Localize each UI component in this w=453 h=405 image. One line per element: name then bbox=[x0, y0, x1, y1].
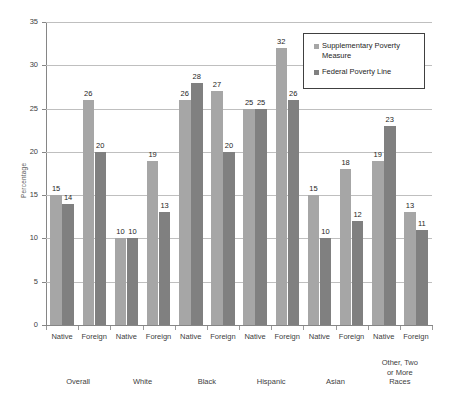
legend-item-federal-poverty-line: Federal Poverty Line bbox=[314, 67, 418, 77]
x-axis-nativity-label: Native bbox=[46, 332, 78, 341]
bar-value-label: 26 bbox=[78, 89, 100, 98]
gridline bbox=[46, 22, 432, 23]
x-axis-group-label-line: Asian bbox=[303, 377, 367, 387]
bar-value-label: 14 bbox=[57, 193, 79, 202]
bar-value-label: 10 bbox=[122, 227, 144, 236]
x-axis-group-label: Asian bbox=[303, 377, 367, 387]
x-axis-tick-mark bbox=[78, 326, 79, 330]
x-axis-tick-mark bbox=[175, 326, 176, 330]
x-axis-group-label-line: Overall bbox=[46, 377, 110, 387]
bar-value-label: 12 bbox=[347, 210, 369, 219]
bar bbox=[243, 109, 255, 325]
bar bbox=[404, 212, 416, 325]
x-axis-nativity-label: Foreign bbox=[271, 332, 303, 341]
bar bbox=[127, 238, 139, 325]
bar-value-label: 15 bbox=[303, 184, 325, 193]
y-axis-tick-label: 35 bbox=[16, 18, 38, 26]
x-axis-nativity-label: Native bbox=[368, 332, 400, 341]
x-axis-tick-mark bbox=[400, 326, 401, 330]
bar bbox=[352, 221, 364, 325]
legend-label-fpl: Federal Poverty Line bbox=[322, 67, 418, 77]
bar-value-label: 15 bbox=[45, 184, 67, 193]
bar bbox=[95, 152, 107, 325]
x-axis-nativity-label: Native bbox=[110, 332, 142, 341]
bar bbox=[384, 126, 396, 325]
bar bbox=[308, 195, 320, 325]
bar-value-label: 26 bbox=[283, 89, 305, 98]
x-axis-tick-mark bbox=[207, 326, 208, 330]
x-axis-nativity-label: Foreign bbox=[143, 332, 175, 341]
x-axis-tick-mark bbox=[336, 326, 337, 330]
bar bbox=[62, 204, 74, 325]
x-axis-nativity-label: Native bbox=[175, 332, 207, 341]
bar-value-label: 27 bbox=[206, 80, 228, 89]
bar bbox=[320, 238, 332, 325]
bar-value-label: 18 bbox=[335, 158, 357, 167]
legend-item-supplementary-poverty-measure: Supplementary Poverty Measure bbox=[314, 41, 418, 61]
poverty-bar-chart: Percentage 05101520253035 15142620101019… bbox=[0, 0, 453, 405]
x-axis-tick-mark bbox=[432, 326, 433, 330]
x-axis-nativity-label: Foreign bbox=[78, 332, 110, 341]
bar-value-label: 11 bbox=[411, 219, 433, 228]
x-axis-nativity-label: Foreign bbox=[400, 332, 432, 341]
legend: Supplementary Poverty Measure Federal Po… bbox=[303, 33, 425, 89]
x-axis-tick-mark bbox=[110, 326, 111, 330]
x-axis-group-label-line: or More bbox=[368, 368, 432, 378]
x-axis-tick-mark bbox=[303, 326, 304, 330]
bar bbox=[211, 91, 223, 325]
x-axis-group-label: Overall bbox=[46, 377, 110, 387]
bar-value-label: 32 bbox=[271, 37, 293, 46]
x-axis-group-label-line: Races bbox=[368, 377, 432, 387]
legend-swatch-icon-fpl bbox=[314, 70, 319, 75]
x-axis-tick-mark bbox=[239, 326, 240, 330]
x-axis-tick-mark bbox=[368, 326, 369, 330]
bar-value-label: 13 bbox=[399, 201, 421, 210]
bar-value-label: 20 bbox=[90, 141, 112, 150]
bar-value-label: 28 bbox=[186, 72, 208, 81]
x-axis-group-label-line: White bbox=[110, 377, 174, 387]
y-axis-tick-label: 30 bbox=[16, 61, 38, 69]
gridline bbox=[46, 109, 432, 110]
y-axis-tick-label: 10 bbox=[16, 234, 38, 242]
x-axis-group-label: Black bbox=[175, 377, 239, 387]
y-axis-tick-label: 15 bbox=[16, 191, 38, 199]
legend-label-spm: Supplementary Poverty Measure bbox=[322, 41, 418, 61]
x-axis-group-label: Hispanic bbox=[239, 377, 303, 387]
bar bbox=[83, 100, 95, 325]
bar bbox=[223, 152, 235, 325]
x-axis-tick-mark bbox=[143, 326, 144, 330]
bar bbox=[416, 230, 428, 325]
bar bbox=[372, 161, 384, 325]
bar-value-label: 23 bbox=[379, 115, 401, 124]
x-axis-group-label-line: Black bbox=[175, 377, 239, 387]
bar bbox=[50, 195, 62, 325]
x-axis-nativity-label: Foreign bbox=[207, 332, 239, 341]
bar bbox=[340, 169, 352, 325]
bar bbox=[115, 238, 127, 325]
bar bbox=[255, 109, 267, 325]
bar bbox=[159, 212, 171, 325]
bar-value-label: 10 bbox=[315, 227, 337, 236]
x-axis-group-label: Other, Twoor MoreRaces bbox=[368, 358, 432, 387]
x-axis-nativity-label: Native bbox=[239, 332, 271, 341]
bar-value-label: 20 bbox=[218, 141, 240, 150]
bar-value-label: 19 bbox=[142, 150, 164, 159]
x-axis-group-label: White bbox=[110, 377, 174, 387]
x-axis-nativity-label: Native bbox=[303, 332, 335, 341]
y-axis-tick-label: 20 bbox=[16, 148, 38, 156]
x-axis-group-label-line: Other, Two bbox=[368, 358, 432, 368]
y-axis-tick-label: 25 bbox=[16, 105, 38, 113]
y-axis-tick-label: 5 bbox=[16, 278, 38, 286]
x-axis-nativity-label: Foreign bbox=[336, 332, 368, 341]
bar bbox=[179, 100, 191, 325]
bar bbox=[191, 83, 203, 325]
x-axis-group-label-line: Hispanic bbox=[239, 377, 303, 387]
bar bbox=[288, 100, 300, 325]
bar bbox=[147, 161, 159, 325]
legend-swatch-icon-spm bbox=[314, 44, 319, 49]
y-axis-tick-label: 0 bbox=[16, 321, 38, 329]
x-axis-tick-mark bbox=[46, 326, 47, 330]
bar-value-label: 13 bbox=[154, 201, 176, 210]
x-axis-tick-mark bbox=[271, 326, 272, 330]
bar-value-label: 25 bbox=[250, 98, 272, 107]
